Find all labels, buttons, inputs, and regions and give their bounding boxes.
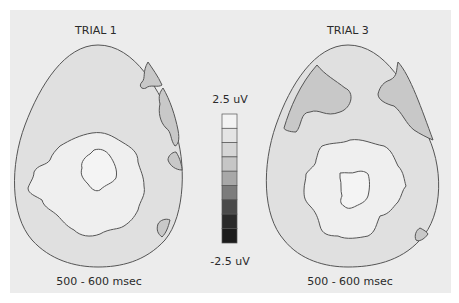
head-map-trial-1	[15, 45, 183, 267]
map-title-trial-3: TRIAL 3	[326, 24, 369, 37]
time-window-trial-3: 500 - 600 msec	[307, 275, 393, 288]
map-title-trial-1: TRIAL 1	[74, 24, 117, 37]
colorbar-min-label: -2.5 uV	[210, 255, 250, 268]
colorbar-max-label: 2.5 uV	[212, 93, 248, 106]
colorbar	[222, 114, 237, 243]
head-map-trial-3	[266, 45, 438, 267]
topographic-maps: TRIAL 1 TRIAL 3 500 - 600 msec 500 - 600…	[0, 0, 459, 303]
time-window-trial-1: 500 - 600 msec	[56, 275, 142, 288]
